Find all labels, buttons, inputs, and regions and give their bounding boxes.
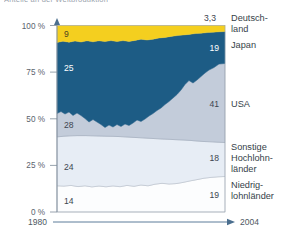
end-value-sonstige: 18 (209, 153, 219, 163)
legend-item-sonstige-line3: länder (231, 164, 257, 174)
legend-item-sonstige-line2: Hochlohn- (231, 153, 273, 163)
x-axis-start-label: 1980 (28, 217, 47, 227)
legend: Deutsch- land Japan USA Sonstige Hochloh… (231, 13, 274, 201)
y-tick-label-75: 75 % (26, 68, 45, 77)
start-value-usa: 28 (64, 120, 74, 130)
end-value-usa: 41 (209, 99, 219, 109)
legend-item-japan: Japan (231, 40, 256, 50)
legend-item-deutschland-line2: land (231, 24, 248, 34)
legend-item-sonstige-line1: Sonstige (231, 142, 267, 152)
end-value-deutschland: 3,3 (204, 13, 216, 23)
start-value-japan: 25 (64, 63, 74, 73)
x-axis-arrow-icon (227, 219, 235, 226)
x-axis-end-label: 2004 (240, 217, 259, 227)
start-value-sonstige: 24 (64, 162, 74, 172)
x-axis: 1980 2004 (28, 217, 259, 227)
chart-title-cropped: Anteile an der Weltproduktion (4, 0, 108, 2)
legend-item-niedrig-line2: lohnländer (231, 191, 274, 201)
legend-item-deutschland-line1: Deutsch- (231, 13, 268, 23)
legend-item-niedrig-line1: Niedrig- (231, 180, 263, 190)
y-axis-arrow-icon (54, 18, 60, 25)
start-value-niedrig: 14 (64, 196, 74, 206)
y-tick-label-25: 25 % (26, 161, 45, 170)
y-tick-label-0: 0 % (31, 208, 45, 217)
y-tick-label-100: 100 % (22, 22, 45, 31)
end-value-niedrig: 19 (209, 190, 219, 200)
end-value-japan: 19 (209, 43, 219, 53)
stacked-area-chart: 100 % 75 % 50 % 25 % 0 % 1980 2004 9 25 … (0, 0, 298, 232)
chart-container: Anteile an der Weltproduktion 100 % (0, 0, 298, 232)
y-axis: 100 % 75 % 50 % 25 % 0 % (22, 18, 60, 217)
start-value-deutschland: 9 (64, 29, 69, 39)
area-band-sonstige-hochlohnlaender (57, 136, 225, 187)
legend-item-usa: USA (231, 99, 251, 109)
y-tick-label-50: 50 % (26, 115, 45, 124)
